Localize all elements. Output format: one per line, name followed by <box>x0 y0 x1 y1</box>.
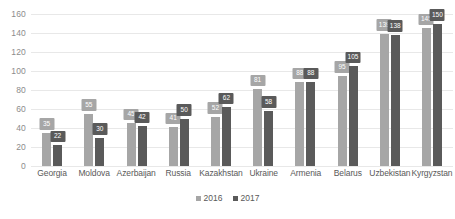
bar-wrapper: 35 <box>42 14 51 166</box>
bar-wrapper: 139 <box>380 14 389 166</box>
legend-item[interactable]: 2017 <box>233 193 260 203</box>
category-label: Azerbaijan <box>115 168 157 182</box>
bar[interactable] <box>169 127 178 166</box>
bar[interactable] <box>380 34 389 166</box>
bar-wrapper: 45 <box>127 14 136 166</box>
bar-group: 139138 <box>369 14 411 166</box>
bar[interactable] <box>84 114 93 166</box>
bar-wrapper: 145 <box>422 14 431 166</box>
legend-item[interactable]: 2016 <box>196 193 223 203</box>
y-axis-tick-label: 40 <box>16 123 26 133</box>
bar-group: 5262 <box>200 14 242 166</box>
category-axis: GeorgiaMoldovaAzerbaijanRussiaKazakhstan… <box>31 168 453 182</box>
y-axis: 160140120100806040200 <box>0 14 30 166</box>
bar-wrapper: 41 <box>169 14 178 166</box>
bar-wrapper: 105 <box>349 14 358 166</box>
bar[interactable] <box>222 107 231 166</box>
bar-value-label: 42 <box>135 112 150 124</box>
bar[interactable] <box>306 82 315 166</box>
category-label: Georgia <box>31 168 73 182</box>
bar-value-label: 62 <box>219 93 234 105</box>
y-axis-tick-label: 140 <box>11 28 26 38</box>
bar[interactable] <box>422 28 431 166</box>
bar-wrapper: 62 <box>222 14 231 166</box>
y-axis-tick-label: 160 <box>11 9 26 19</box>
bar-wrapper: 30 <box>95 14 104 166</box>
legend-swatch-icon <box>196 196 201 201</box>
bar-value-label: 55 <box>81 99 96 111</box>
bar[interactable] <box>211 117 220 166</box>
bar[interactable] <box>349 66 358 166</box>
bar[interactable] <box>138 126 147 166</box>
plot-area: 3522553045424150526281588888951051391381… <box>31 14 453 166</box>
bar-wrapper: 55 <box>84 14 93 166</box>
bar-value-label: 50 <box>177 104 192 116</box>
bar[interactable] <box>180 119 189 167</box>
bar-group: 4542 <box>115 14 157 166</box>
category-label: Moldova <box>73 168 115 182</box>
legend-swatch-icon <box>233 196 238 201</box>
y-axis-tick-label: 80 <box>16 85 26 95</box>
category-label: Ukraine <box>243 168 285 182</box>
bar-wrapper: 81 <box>253 14 262 166</box>
bar-group: 3522 <box>31 14 73 166</box>
bar-wrapper: 95 <box>338 14 347 166</box>
bar-value-label: 105 <box>346 52 361 64</box>
y-axis-tick-label: 20 <box>16 142 26 152</box>
bar-group: 4150 <box>158 14 200 166</box>
bar-wrapper: 50 <box>180 14 189 166</box>
bar-value-label: 22 <box>50 131 65 143</box>
bar-group: 5530 <box>73 14 115 166</box>
bar[interactable] <box>295 82 304 166</box>
chart-legend: 20162017 <box>0 193 455 203</box>
bar-wrapper: 88 <box>295 14 304 166</box>
bar-wrapper: 42 <box>138 14 147 166</box>
bar-wrapper: 150 <box>433 14 442 166</box>
bar-wrapper: 138 <box>391 14 400 166</box>
category-label: Kyrgyzstan <box>411 168 453 182</box>
bar-value-label: 138 <box>388 20 403 32</box>
bar-wrapper: 88 <box>306 14 315 166</box>
bar-wrapper: 58 <box>264 14 273 166</box>
bar[interactable] <box>433 24 442 167</box>
bar[interactable] <box>338 76 347 166</box>
bar[interactable] <box>95 138 104 167</box>
legend-label: 2017 <box>241 193 260 203</box>
bar-group: 8158 <box>242 14 284 166</box>
bar-value-label: 58 <box>261 96 276 108</box>
bar-group: 8888 <box>284 14 326 166</box>
bar-value-label: 35 <box>39 118 54 130</box>
bar-group: 145150 <box>411 14 453 166</box>
bar[interactable] <box>127 123 136 166</box>
category-label: Belarus <box>327 168 369 182</box>
bar-value-label: 88 <box>303 68 318 80</box>
bar-wrapper: 22 <box>53 14 62 166</box>
category-label: Kazakhstan <box>199 168 242 182</box>
y-axis-tick-label: 60 <box>16 104 26 114</box>
category-label: Uzbekistan <box>369 168 411 182</box>
bar-value-label: 81 <box>250 75 265 87</box>
bar-value-label: 150 <box>430 9 445 21</box>
category-label: Armenia <box>285 168 327 182</box>
bar[interactable] <box>264 111 273 166</box>
bar[interactable] <box>391 35 400 166</box>
bar[interactable] <box>53 145 62 166</box>
bars-layer: 3522553045424150526281588888951051391381… <box>31 14 453 166</box>
bar-group: 95105 <box>326 14 368 166</box>
y-axis-tick-label: 120 <box>11 47 26 57</box>
y-axis-tick-label: 0 <box>21 161 26 171</box>
y-axis-tick-label: 100 <box>11 66 26 76</box>
bar-value-label: 30 <box>92 123 107 135</box>
bar-chart: 160140120100806040200 352255304542415052… <box>0 0 455 219</box>
gridline <box>31 166 453 167</box>
bar-wrapper: 52 <box>211 14 220 166</box>
category-label: Russia <box>157 168 199 182</box>
legend-label: 2016 <box>204 193 223 203</box>
